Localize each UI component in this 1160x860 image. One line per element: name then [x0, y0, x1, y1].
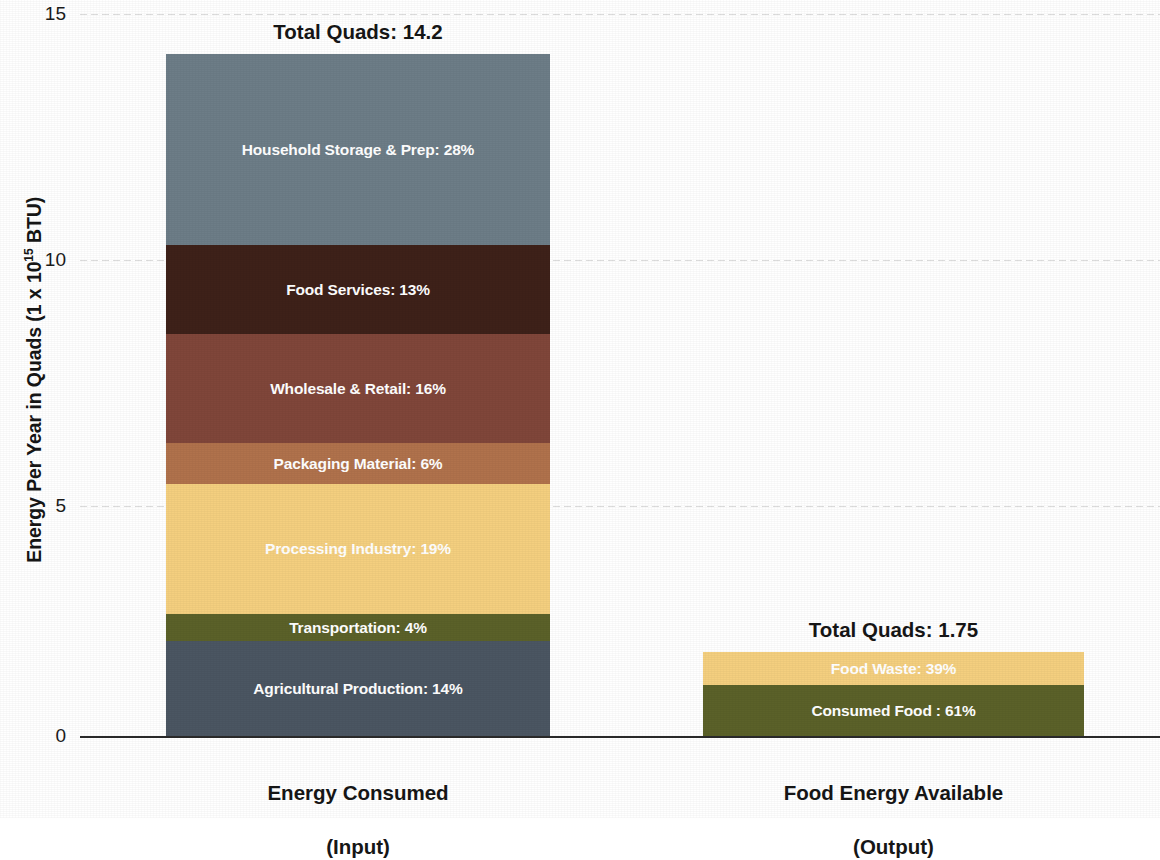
- bar-total-label-input: Total Quads: 14.2: [166, 20, 550, 44]
- bar-energy-consumed-input[interactable]: Household Storage & Prep: 28% Food Servi…: [166, 54, 550, 736]
- x-axis-category-label-input: Energy Consumed (Input): [166, 752, 550, 860]
- segment-label-food-waste: Food Waste: 39%: [831, 660, 957, 678]
- segment-label-transportation: Transportation: 4%: [289, 619, 427, 637]
- segment-food-waste[interactable]: Food Waste: 39%: [703, 652, 1084, 685]
- y-tick-label-5: 5: [0, 496, 66, 515]
- y-axis-title-tail: BTU): [23, 197, 45, 249]
- y-axis-title: Energy Per Year in Quads (1 x 1015 BTU): [22, 100, 46, 660]
- y-tick-label-10: 10: [0, 250, 66, 269]
- segment-label-consumed-food: Consumed Food : 61%: [811, 702, 975, 720]
- x-axis-category-label-output: Food Energy Available (Output): [703, 752, 1084, 860]
- segment-transportation[interactable]: Transportation: 4%: [166, 614, 550, 641]
- gridline-15: [80, 14, 1160, 15]
- bar-food-energy-available-output[interactable]: Food Waste: 39% Consumed Food : 61%: [703, 652, 1084, 736]
- bar-total-label-output: Total Quads: 1.75: [703, 618, 1084, 642]
- segment-label-wholesale-retail: Wholesale & Retail: 16%: [270, 380, 446, 398]
- segment-label-agricultural-production: Agricultural Production: 14%: [253, 680, 462, 698]
- x-axis-category-line1-output: Food Energy Available: [784, 781, 1003, 804]
- segment-packaging-material[interactable]: Packaging Material: 6%: [166, 443, 550, 484]
- y-tick-label-0: 0: [0, 726, 66, 745]
- segment-agricultural-production[interactable]: Agricultural Production: 14%: [166, 641, 550, 736]
- segment-label-packaging-material: Packaging Material: 6%: [274, 455, 443, 473]
- segment-household-storage-prep[interactable]: Household Storage & Prep: 28%: [166, 54, 550, 245]
- segment-wholesale-retail[interactable]: Wholesale & Retail: 16%: [166, 334, 550, 443]
- segment-food-services[interactable]: Food Services: 13%: [166, 245, 550, 334]
- y-tick-label-15: 15: [0, 4, 66, 23]
- segment-processing-industry[interactable]: Processing Industry: 19%: [166, 484, 550, 614]
- x-axis-category-line1-input: Energy Consumed: [267, 781, 448, 804]
- segment-label-food-services: Food Services: 13%: [286, 281, 430, 299]
- x-axis-line: [80, 736, 1160, 738]
- segment-label-processing-industry: Processing Industry: 19%: [265, 540, 451, 558]
- x-axis-category-line2-output: (Output): [853, 835, 934, 858]
- segment-consumed-food[interactable]: Consumed Food : 61%: [703, 685, 1084, 736]
- segment-label-household-storage-prep: Household Storage & Prep: 28%: [242, 141, 475, 159]
- y-axis-title-base: Energy Per Year in Quads (1 x 10: [23, 262, 45, 563]
- x-axis-category-line2-input: (Input): [326, 835, 390, 858]
